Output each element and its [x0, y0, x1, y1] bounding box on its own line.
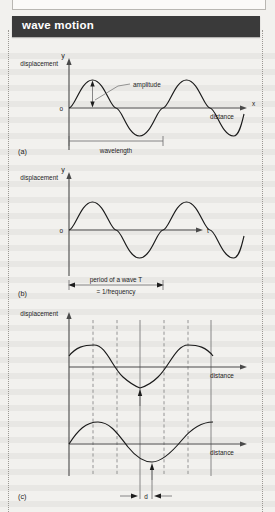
panel-b-period-formula: = 1/frequency [97, 288, 137, 296]
panel-c-lower-x-label: distance [210, 449, 234, 456]
panel-c-lower-wave [69, 422, 213, 462]
panel-c-d-label: d [144, 493, 148, 500]
panel-a-x-arrow [240, 105, 247, 110]
panel-b-x-arrow [196, 227, 203, 232]
panel-a-origin-label: o [59, 105, 63, 112]
panel-a-x-symbol: x [252, 100, 256, 107]
panel-b-origin-label: o [59, 227, 63, 234]
panel-c-y-arrow [66, 312, 71, 319]
panel-b-y-arrow [66, 172, 71, 179]
panel-a-amplitude-leader [95, 84, 130, 100]
panel-a-y-axis-label: displacement [20, 60, 58, 68]
panel-a-amplitude-arrow-down [90, 102, 94, 108]
panel-a-amplitude-label: amplitude [133, 81, 161, 89]
section-header-bar: wave motion [12, 16, 260, 37]
panel-a-y-symbol: y [61, 51, 65, 60]
wave-motion-figure: y displacement o x distance amplitude wa… [0, 44, 275, 512]
panel-c-lower-displacement-arrow [150, 463, 154, 470]
panel-c-d-arrow-left [131, 493, 138, 498]
panel-c-caption: (c) [18, 492, 26, 501]
panel-a-caption: (a) [18, 147, 27, 156]
panel-b-caption: (b) [18, 289, 27, 298]
panel-b-period-label: period of a wave T [90, 276, 143, 284]
panel-c-upper-x-label: distance [210, 372, 234, 379]
panel-c-upper-displacement-arrow [138, 389, 142, 396]
panel-c: displacement distance distance [18, 310, 247, 501]
panel-a-amplitude-arrow-up [90, 81, 94, 87]
panel-c-y-axis-label: displacement [20, 310, 58, 318]
panel-b-y-axis-label: displacement [20, 174, 58, 182]
panel-c-lower-x-arrow [240, 441, 247, 446]
page-top-box-fragment [12, 0, 266, 10]
panel-b: y displacement o t period of a wave T = … [18, 165, 244, 298]
panel-b-y-symbol: y [61, 165, 65, 174]
panel-a-wavelength-label: wavelength [99, 147, 133, 155]
panel-a-x-axis-label: distance [210, 113, 234, 120]
page-title: wave motion [22, 19, 94, 31]
panel-a: y displacement o x distance amplitude wa… [18, 51, 256, 156]
panel-a-y-arrow [66, 58, 71, 65]
panel-c-upper-x-arrow [240, 364, 247, 369]
panel-c-d-arrow-right [154, 493, 161, 498]
